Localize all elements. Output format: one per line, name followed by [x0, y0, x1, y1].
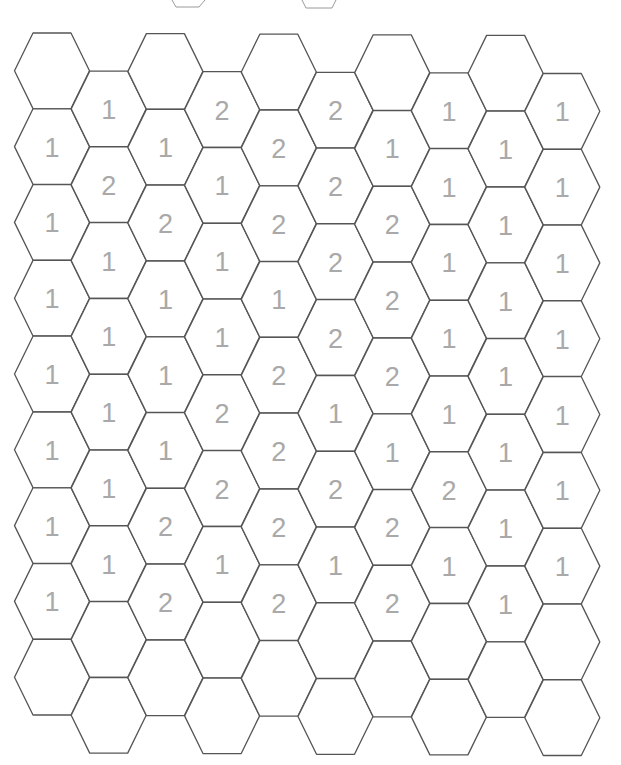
top-partial-hexes — [172, 0, 336, 8]
partial-hex-fragment — [172, 0, 205, 7]
hex-board: 1111111121111112111222111221221222222221… — [0, 0, 621, 765]
hex-cells: 1111111121111112111222111221221222222221… — [15, 33, 600, 756]
partial-hex-fragment — [302, 0, 336, 8]
